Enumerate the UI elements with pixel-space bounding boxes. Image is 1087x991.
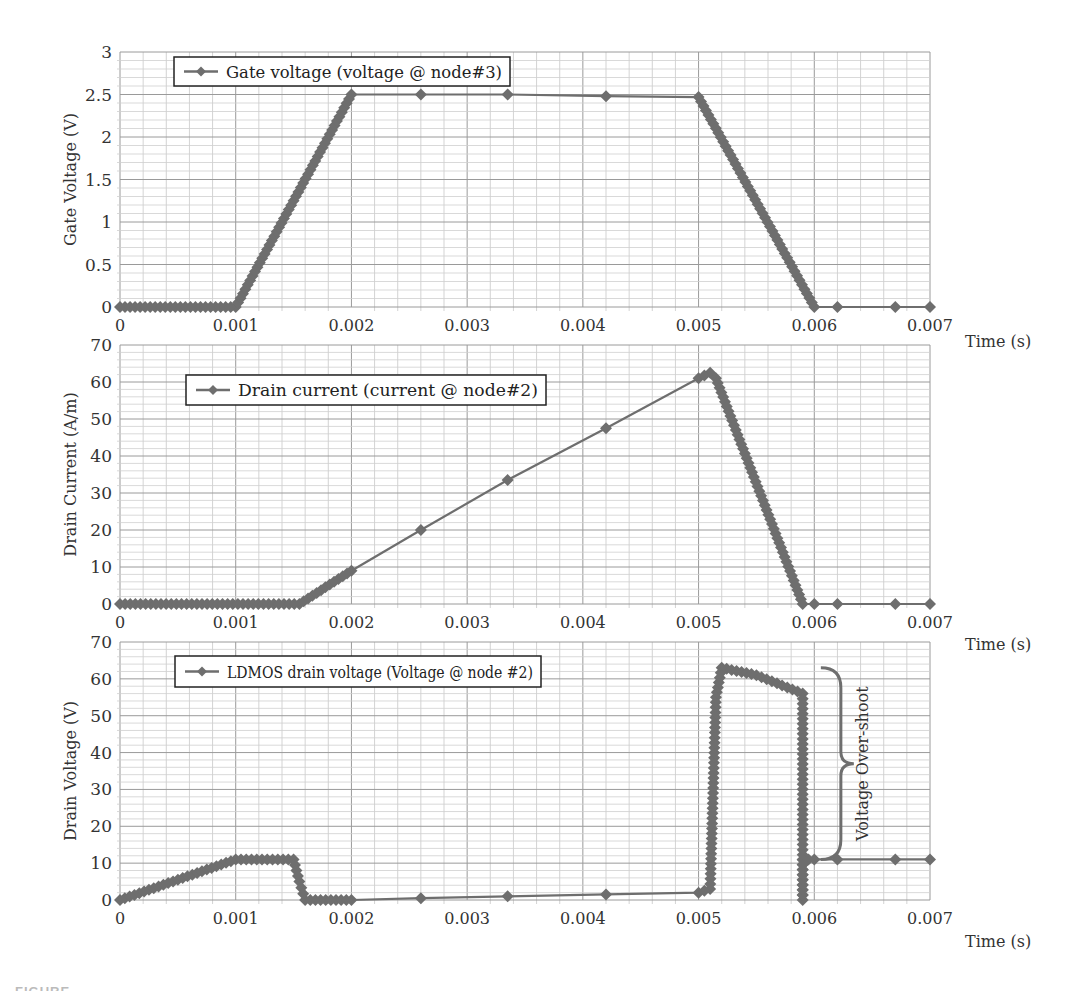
x-tick-label: 0.006 [791, 909, 837, 928]
y-tick-label: 3 [101, 42, 112, 62]
x-tick-label: 0.002 [329, 316, 375, 335]
x-tick-label: 0.002 [329, 909, 375, 928]
y-tick-label: 1.5 [85, 170, 112, 190]
y-tick-label: 10 [90, 557, 112, 577]
y-tick-label: 30 [90, 779, 112, 799]
y-tick-label: 2.5 [85, 85, 112, 105]
x-tick-label: 0.004 [560, 613, 606, 632]
diamond-marker [415, 524, 427, 536]
x-tick-label: 0.004 [560, 316, 606, 335]
y-axis-label: Gate Voltage (V) [61, 113, 80, 246]
y-tick-label: 50 [90, 706, 112, 726]
x-tick-label: 0.007 [907, 909, 953, 928]
y-tick-label: 70 [90, 632, 112, 652]
x-tick-label: 0.001 [213, 316, 259, 335]
figure-canvas: 00.511.522.5300.0010.0020.0030.0040.0050… [0, 0, 1087, 991]
x-tick-label: 0 [115, 613, 125, 632]
y-tick-label: 0 [101, 890, 112, 910]
y-tick-label: 60 [90, 372, 112, 392]
y-tick-label: 40 [90, 743, 112, 763]
x-tick-label: 0.006 [791, 613, 837, 632]
x-tick-label: 0.005 [676, 316, 722, 335]
grid [117, 52, 930, 311]
y-tick-label: 70 [90, 335, 112, 355]
diamond-marker [889, 598, 901, 610]
diamond-marker [924, 301, 936, 313]
x-tick-label: 0.003 [444, 613, 490, 632]
diamond-marker [502, 890, 514, 902]
chart-panel-3: 01020304050607000.0010.0020.0030.0040.00… [61, 632, 1031, 951]
legend-label: Gate voltage (voltage @ node#3) [226, 62, 502, 82]
y-axis-label: Drain Current (A/m) [61, 392, 80, 556]
x-tick-label: 0.003 [444, 909, 490, 928]
y-tick-label: 0 [101, 297, 112, 317]
x-tick-label: 0.007 [907, 316, 953, 335]
y-tick-label: 1 [101, 212, 112, 232]
x-axis-label: Time (s) [965, 332, 1031, 351]
x-tick-label: 0.006 [791, 316, 837, 335]
x-tick-label: 0.004 [560, 909, 606, 928]
diamond-marker [502, 89, 514, 101]
series-line [120, 95, 930, 308]
chart-panel-2: 01020304050607000.0010.0020.0030.0040.00… [61, 335, 1031, 654]
y-tick-label: 60 [90, 669, 112, 689]
series-line [120, 373, 930, 604]
x-axis-label: Time (s) [965, 932, 1031, 951]
diamond-marker [415, 89, 427, 101]
y-tick-label: 50 [90, 409, 112, 429]
legend-label: Drain current (current @ node#2) [238, 380, 538, 400]
x-tick-label: 0.005 [676, 613, 722, 632]
annotation-label: Voltage Over-shoot [853, 686, 872, 842]
x-tick-label: 0.001 [213, 909, 259, 928]
diamond-marker [924, 853, 936, 865]
x-tick-label: 0.007 [907, 613, 953, 632]
legend-label: LDMOS drain voltage (Voltage @ node #2) [227, 662, 533, 682]
legend: Gate voltage (voltage @ node#3) [174, 57, 510, 86]
y-tick-label: 0.5 [85, 255, 112, 275]
figure-caption: FIGURE [15, 984, 70, 991]
series-markers [114, 89, 936, 314]
x-tick-label: 0 [115, 316, 125, 335]
x-tick-label: 0.001 [213, 613, 259, 632]
legend: LDMOS drain voltage (Voltage @ node #2) [175, 656, 541, 687]
x-tick-label: 0.005 [676, 909, 722, 928]
diamond-marker [415, 892, 427, 904]
y-axis-label: Drain Voltage (V) [61, 701, 80, 841]
series-markers [114, 662, 936, 906]
y-tick-label: 20 [90, 816, 112, 836]
diamond-marker [924, 598, 936, 610]
diamond-marker [808, 598, 820, 610]
legend: Drain current (current @ node#2) [186, 375, 546, 405]
y-tick-label: 40 [90, 446, 112, 466]
y-tick-label: 20 [90, 520, 112, 540]
x-tick-label: 0.003 [444, 316, 490, 335]
diamond-marker [889, 301, 901, 313]
diamond-marker [831, 598, 843, 610]
diamond-marker [600, 90, 612, 102]
x-tick-label: 0.002 [329, 613, 375, 632]
diamond-marker [831, 301, 843, 313]
diamond-marker [600, 888, 612, 900]
y-tick-label: 30 [90, 483, 112, 503]
diamond-marker [600, 422, 612, 434]
diamond-marker [889, 853, 901, 865]
y-tick-label: 0 [101, 594, 112, 614]
diamond-marker [502, 474, 514, 486]
x-axis-label: Time (s) [965, 635, 1031, 654]
y-tick-label: 10 [90, 853, 112, 873]
y-tick-label: 2 [101, 127, 112, 147]
x-tick-label: 0 [115, 909, 125, 928]
chart-panel-1: 00.511.522.5300.0010.0020.0030.0040.0050… [61, 42, 1031, 351]
